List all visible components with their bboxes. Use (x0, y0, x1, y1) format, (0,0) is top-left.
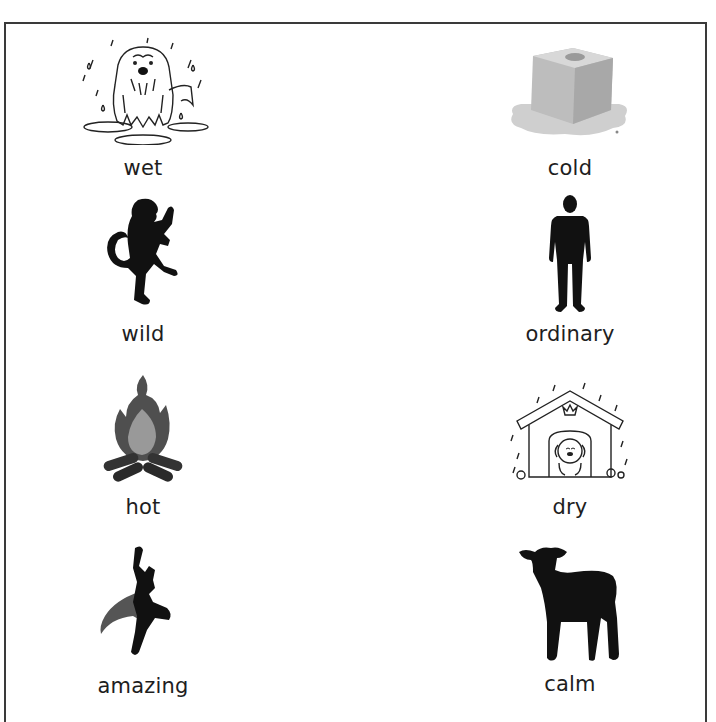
word-label: dry (470, 495, 670, 519)
melting-ice-cube-icon (505, 44, 635, 144)
word-card-hot: hot (43, 365, 243, 525)
word-card-amazing: amazing (43, 540, 243, 707)
rampant-lion-icon (98, 196, 188, 314)
word-card-wild: wild (43, 190, 243, 355)
word-card-calm: calm (470, 540, 670, 707)
word-card-dry: dry (470, 365, 670, 525)
word-label: cold (470, 156, 670, 180)
word-label: calm (470, 672, 670, 696)
word-label: wet (43, 156, 243, 180)
lamb-icon (515, 542, 625, 662)
flying-superhero-icon (93, 544, 193, 662)
word-card-wet: wet (43, 30, 243, 190)
campfire-icon (98, 373, 188, 483)
word-label: hot (43, 495, 243, 519)
word-label: ordinary (470, 322, 670, 346)
word-card-ordinary: ordinary (470, 190, 670, 355)
word-label: wild (43, 322, 243, 346)
word-label: amazing (43, 674, 243, 698)
standing-man-icon (545, 194, 595, 314)
word-card-cold: cold (470, 30, 670, 190)
dog-in-kennel-icon (505, 375, 635, 485)
wet-dog-in-rain-icon (73, 35, 213, 145)
